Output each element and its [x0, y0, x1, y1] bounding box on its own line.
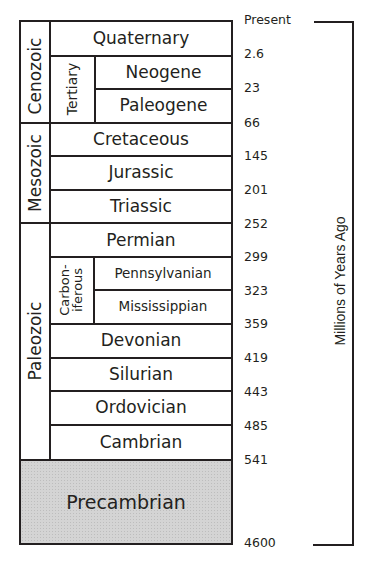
era-paleozoic: Paleozoic [21, 254, 49, 428]
age-label: 201 [244, 182, 268, 197]
era-cenozoic: Cenozoic [21, 25, 49, 127]
period-ordovician: Ordovician [50, 390, 232, 424]
subgroup-tertiary: Tertiary [58, 56, 86, 122]
bracket-vertical [352, 21, 354, 545]
bracket-bottom [313, 544, 354, 546]
period-devonian: Devonian [50, 323, 232, 357]
period-silurian: Silurian [50, 357, 232, 390]
bracket-top [314, 21, 354, 23]
era-mesozoic: Mesozoic [21, 122, 49, 224]
period-quaternary: Quaternary [50, 21, 232, 55]
period-cretaceous: Cretaceous [50, 123, 232, 155]
age-label: 323 [244, 283, 268, 298]
period-neogene: Neogene [95, 55, 232, 88]
age-label: 359 [244, 316, 268, 331]
period-paleogene: Paleogene [95, 88, 232, 122]
age-label-present: Present [244, 12, 291, 27]
period-pennsylvanian: Pennsylvanian [94, 256, 232, 289]
period-precambrian: Precambrian [21, 461, 231, 543]
age-label: 299 [244, 249, 268, 264]
age-label: 23 [244, 80, 260, 95]
age-label: 541 [244, 452, 268, 467]
period-cambrian: Cambrian [50, 424, 232, 459]
age-label: 443 [244, 384, 268, 399]
age-label: 66 [244, 115, 260, 130]
era-boundary-precambrian [19, 459, 233, 461]
age-label: 145 [244, 148, 268, 163]
age-label: 252 [244, 216, 268, 231]
age-label: 4600 [244, 535, 276, 550]
subgroup-carboniferous: Carbon- iferous [54, 257, 88, 323]
period-triassic: Triassic [50, 189, 232, 222]
age-label: 419 [244, 350, 268, 365]
period-permian: Permian [50, 224, 232, 256]
age-label: 2.6 [244, 46, 264, 61]
axis-label-millions-of-years-ago: Millions of Years Ago [329, 196, 351, 366]
age-label: 485 [244, 418, 268, 433]
period-mississippian: Mississippian [94, 289, 232, 323]
period-jurassic: Jurassic [50, 155, 232, 189]
